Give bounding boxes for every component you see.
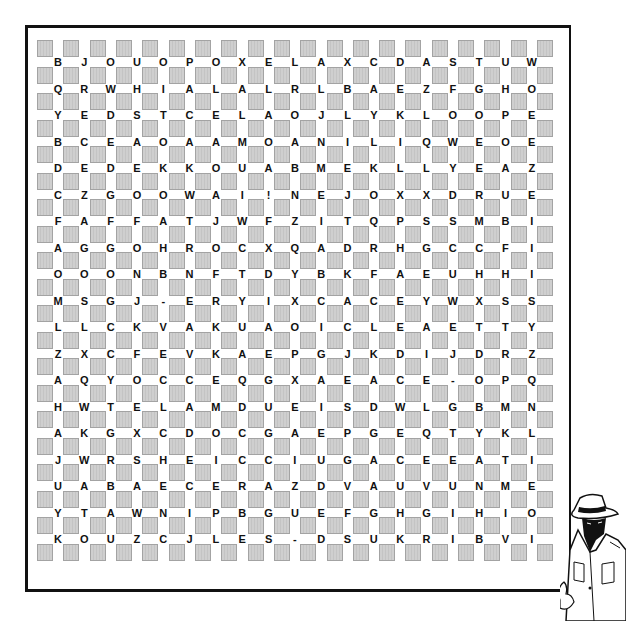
puzzle-letter[interactable]: E	[471, 161, 487, 175]
puzzle-letter[interactable]: I	[445, 506, 461, 520]
puzzle-letter[interactable]: Y	[524, 320, 540, 334]
puzzle-letter[interactable]: C	[340, 320, 356, 334]
puzzle-letter[interactable]: V	[497, 532, 513, 546]
puzzle-letter[interactable]: E	[313, 506, 329, 520]
puzzle-letter[interactable]: T	[471, 55, 487, 69]
puzzle-letter[interactable]: I	[208, 453, 224, 467]
puzzle-letter[interactable]: L	[155, 400, 171, 414]
puzzle-letter[interactable]: P	[392, 214, 408, 228]
puzzle-letter[interactable]: A	[313, 373, 329, 387]
puzzle-letter[interactable]: T	[497, 453, 513, 467]
puzzle-letter[interactable]: E	[392, 320, 408, 334]
puzzle-letter[interactable]: L	[208, 82, 224, 96]
puzzle-letter[interactable]: E	[261, 347, 277, 361]
puzzle-letter[interactable]: W	[76, 400, 92, 414]
puzzle-letter[interactable]: F	[103, 214, 119, 228]
puzzle-letter[interactable]: J	[340, 347, 356, 361]
puzzle-letter[interactable]: G	[313, 347, 329, 361]
puzzle-letter[interactable]: C	[76, 135, 92, 149]
puzzle-letter[interactable]: R	[76, 82, 92, 96]
puzzle-letter[interactable]: G	[103, 294, 119, 308]
puzzle-letter[interactable]: I	[524, 532, 540, 546]
puzzle-letter[interactable]: E	[76, 108, 92, 122]
puzzle-letter[interactable]: K	[366, 347, 382, 361]
puzzle-letter[interactable]: A	[261, 161, 277, 175]
puzzle-letter[interactable]: H	[497, 267, 513, 281]
puzzle-letter[interactable]: E	[392, 294, 408, 308]
puzzle-letter[interactable]: J	[340, 188, 356, 202]
puzzle-letter[interactable]: J	[208, 214, 224, 228]
puzzle-letter[interactable]: D	[103, 108, 119, 122]
puzzle-letter[interactable]: T	[76, 506, 92, 520]
puzzle-letter[interactable]: B	[340, 82, 356, 96]
puzzle-letter[interactable]: A	[261, 479, 277, 493]
puzzle-letter[interactable]: G	[418, 506, 434, 520]
puzzle-letter[interactable]: E	[182, 453, 198, 467]
puzzle-letter[interactable]: E	[418, 373, 434, 387]
puzzle-letter[interactable]: A	[208, 135, 224, 149]
puzzle-letter[interactable]: K	[392, 532, 408, 546]
puzzle-letter[interactable]: L	[287, 55, 303, 69]
puzzle-letter[interactable]: O	[129, 188, 145, 202]
puzzle-letter[interactable]: M	[497, 479, 513, 493]
puzzle-letter[interactable]: K	[129, 320, 145, 334]
puzzle-letter[interactable]: G	[103, 426, 119, 440]
puzzle-letter[interactable]: E	[234, 532, 250, 546]
puzzle-letter[interactable]: Y	[418, 294, 434, 308]
puzzle-letter[interactable]: U	[129, 55, 145, 69]
puzzle-letter[interactable]: O	[208, 426, 224, 440]
puzzle-letter[interactable]: O	[103, 55, 119, 69]
puzzle-letter[interactable]: U	[261, 400, 277, 414]
puzzle-letter[interactable]: S	[261, 532, 277, 546]
puzzle-letter[interactable]: A	[76, 214, 92, 228]
puzzle-letter[interactable]: X	[129, 426, 145, 440]
puzzle-letter[interactable]: Y	[366, 108, 382, 122]
puzzle-letter[interactable]: O	[129, 241, 145, 255]
puzzle-letter[interactable]: D	[340, 241, 356, 255]
puzzle-letter[interactable]: X	[392, 188, 408, 202]
puzzle-letter[interactable]: E	[524, 135, 540, 149]
puzzle-letter[interactable]: G	[418, 241, 434, 255]
puzzle-letter[interactable]: U	[366, 532, 382, 546]
puzzle-letter[interactable]: Q	[366, 214, 382, 228]
puzzle-letter[interactable]: G	[340, 453, 356, 467]
puzzle-letter[interactable]: C	[471, 241, 487, 255]
puzzle-letter[interactable]: D	[103, 161, 119, 175]
puzzle-letter[interactable]: S	[524, 294, 540, 308]
puzzle-letter[interactable]: W	[445, 135, 461, 149]
puzzle-letter[interactable]: W	[129, 506, 145, 520]
puzzle-letter[interactable]: H	[392, 241, 408, 255]
puzzle-letter[interactable]: A	[471, 453, 487, 467]
puzzle-letter[interactable]: E	[208, 373, 224, 387]
puzzle-letter[interactable]: Y	[50, 506, 66, 520]
puzzle-letter[interactable]: A	[418, 55, 434, 69]
puzzle-letter[interactable]: A	[129, 479, 145, 493]
puzzle-letter[interactable]: S	[418, 214, 434, 228]
puzzle-letter[interactable]: T	[497, 320, 513, 334]
puzzle-letter[interactable]: C	[392, 373, 408, 387]
puzzle-letter[interactable]: K	[497, 426, 513, 440]
puzzle-letter[interactable]: K	[392, 108, 408, 122]
puzzle-letter[interactable]: K	[340, 267, 356, 281]
puzzle-letter[interactable]: I	[287, 453, 303, 467]
puzzle-letter[interactable]: A	[366, 453, 382, 467]
puzzle-letter[interactable]: Q	[287, 241, 303, 255]
puzzle-letter[interactable]: C	[234, 453, 250, 467]
puzzle-letter[interactable]: N	[313, 135, 329, 149]
puzzle-letter[interactable]: S	[340, 400, 356, 414]
puzzle-letter[interactable]: S	[76, 294, 92, 308]
puzzle-letter[interactable]: O	[471, 373, 487, 387]
puzzle-letter[interactable]: T	[234, 267, 250, 281]
puzzle-letter[interactable]: C	[261, 453, 277, 467]
puzzle-letter[interactable]: R	[366, 241, 382, 255]
puzzle-letter[interactable]: F	[340, 506, 356, 520]
puzzle-letter[interactable]: R	[182, 241, 198, 255]
puzzle-letter[interactable]: T	[103, 400, 119, 414]
puzzle-letter[interactable]: N	[287, 188, 303, 202]
puzzle-letter[interactable]: -	[155, 294, 171, 308]
puzzle-letter[interactable]: D	[366, 400, 382, 414]
puzzle-letter[interactable]: O	[524, 506, 540, 520]
puzzle-letter[interactable]: O	[76, 532, 92, 546]
puzzle-letter[interactable]: U	[313, 453, 329, 467]
puzzle-letter[interactable]: X	[471, 294, 487, 308]
